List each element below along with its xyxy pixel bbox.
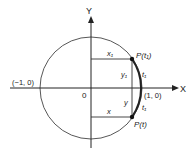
point-p-t1 (130, 57, 134, 61)
x1-label: x₁ (106, 49, 114, 58)
p-t-label: P(t) (134, 120, 147, 129)
x-label: x (106, 107, 111, 116)
x-axis-arrow-icon (172, 85, 179, 91)
arc-t1-lower-label: t₁ (142, 103, 147, 112)
left-point-label: (−1, 0) (12, 78, 34, 87)
right-point-label: (1, 0) (144, 91, 162, 100)
y-axis-label: Y (86, 6, 92, 16)
origin-label: 0 (82, 91, 87, 100)
p-t1-label: P(t₁) (136, 51, 152, 60)
point-p-t (130, 115, 134, 119)
y-axis-arrow-icon (88, 16, 94, 23)
y-label: y (123, 98, 129, 107)
y1-label: y₁ (120, 70, 128, 79)
unit-circle-diagram: Y X 0 (−1, 0) (1, 0) P(t₁) P(t) x₁ x y₁ … (0, 0, 190, 156)
x-axis-label: X (180, 84, 186, 94)
arc-t1-upper-label: t₁ (142, 70, 147, 79)
